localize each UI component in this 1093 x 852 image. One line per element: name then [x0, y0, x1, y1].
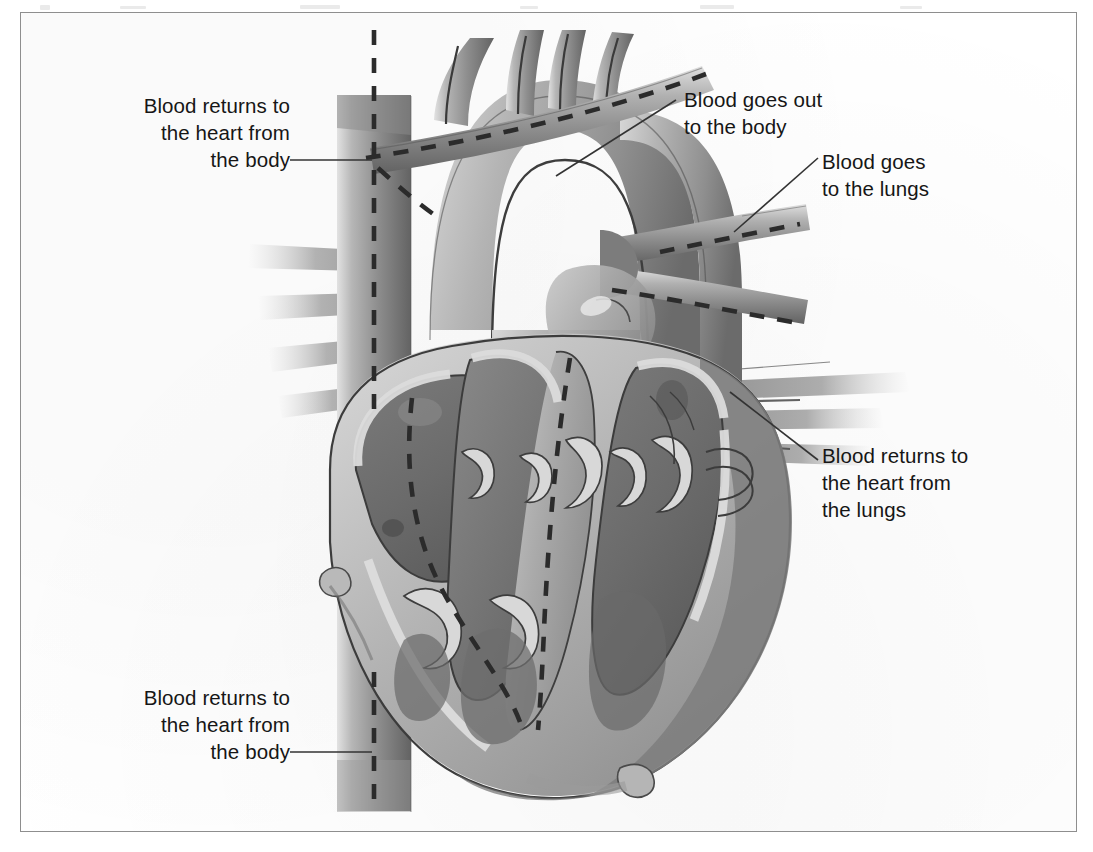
callout-return-lungs: Blood returns to the heart from the lung…: [822, 442, 1072, 523]
callout-return-body-lower: Blood returns to the heart from the body: [80, 684, 290, 765]
callout-return-body-upper: Blood returns to the heart from the body: [80, 92, 290, 173]
callout-out-to-body: Blood goes out to the body: [684, 86, 924, 140]
scan-bleed-artifact: [0, 0, 1093, 12]
callout-to-lungs: Blood goes to the lungs: [822, 148, 1062, 202]
